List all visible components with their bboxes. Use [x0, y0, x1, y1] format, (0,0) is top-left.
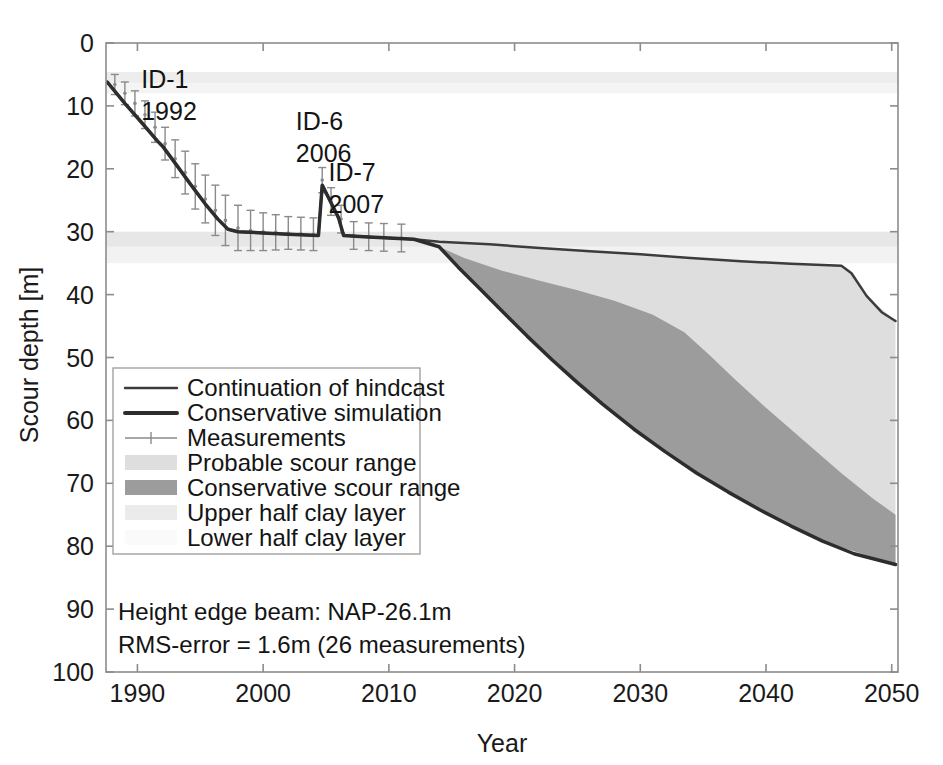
measurement-point [320, 178, 324, 182]
y-tick-label: 90 [66, 595, 94, 623]
y-tick-label: 10 [66, 92, 94, 120]
legend-swatch [125, 505, 177, 520]
clay-band [106, 72, 898, 83]
measurement-point [236, 226, 240, 230]
measurement-point [153, 125, 157, 129]
clay-band [106, 83, 898, 93]
y-tick-label: 60 [66, 406, 94, 434]
legend-label: Probable scour range [187, 449, 416, 476]
legend-label: Continuation of hindcast [187, 374, 445, 401]
legend-label: Conservative simulation [187, 399, 442, 426]
y-tick-label: 30 [66, 218, 94, 246]
x-tick-label: 2000 [235, 679, 291, 707]
legend-swatch [125, 455, 177, 470]
x-tick-label: 2050 [864, 679, 920, 707]
y-tick-label: 70 [66, 469, 94, 497]
annotation-label: ID-6 [296, 107, 343, 135]
x-tick-label: 2030 [612, 679, 668, 707]
measurement-point [113, 83, 117, 87]
y-axis-title: Scour depth [m] [15, 267, 43, 443]
x-tick-label: 2040 [738, 679, 794, 707]
measurement-point [123, 92, 127, 96]
plot-note: Height edge beam: NAP-26.1m [118, 598, 452, 625]
x-axis-title: Year [477, 729, 528, 757]
legend-label: Measurements [187, 424, 346, 451]
annotation-label: ID-7 [329, 158, 376, 186]
x-tick-label: 2020 [487, 679, 543, 707]
measurement-point [214, 209, 218, 213]
y-tick-label: 0 [80, 29, 94, 57]
plot-note: RMS-error = 1.6m (26 measurements) [118, 631, 525, 658]
y-tick-label: 50 [66, 344, 94, 372]
legend-swatch [125, 530, 177, 545]
measurement-point [163, 142, 167, 146]
legend-swatch [125, 480, 177, 495]
chart-figure: 1990200020102020203020402050010203040506… [0, 0, 943, 765]
x-tick-label: 1990 [110, 679, 166, 707]
measurement-point [133, 102, 137, 106]
annotation-label: ID-1 [141, 65, 188, 93]
chart-legend: Continuation of hindcastConservative sim… [113, 368, 460, 554]
measurement-point [224, 219, 228, 223]
y-tick-label: 20 [66, 155, 94, 183]
annotation-label: 1992 [141, 97, 197, 125]
legend-label: Lower half clay layer [187, 524, 406, 551]
y-tick-label: 40 [66, 281, 94, 309]
y-tick-label: 100 [52, 658, 94, 686]
legend-label: Conservative scour range [187, 474, 460, 501]
annotation-label: 2007 [329, 190, 385, 218]
legend-label: Upper half clay layer [187, 499, 406, 526]
y-tick-label: 80 [66, 532, 94, 560]
scour-depth-chart: 1990200020102020203020402050010203040506… [0, 0, 943, 765]
x-tick-label: 2010 [361, 679, 417, 707]
